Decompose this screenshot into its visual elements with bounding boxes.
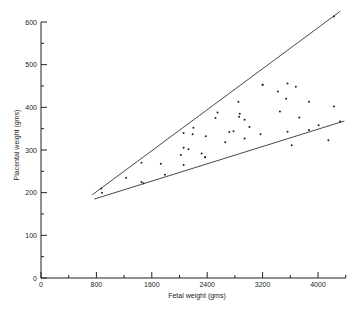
data-point [205,135,207,137]
x-tick-label: 0 [39,281,43,288]
data-point [318,124,320,126]
data-point [183,164,185,166]
data-point [262,84,264,86]
data-point [308,129,310,131]
data-point [260,133,262,135]
data-point [188,148,190,150]
data-point [228,131,230,133]
data-point [183,147,185,149]
data-point [327,139,329,141]
data-point [244,119,246,121]
data-point [285,98,287,100]
x-tick-label: 3200 [255,281,271,288]
data-point [201,152,203,154]
lower-bound-line [94,121,344,199]
y-tick-label: 600 [25,19,37,26]
data-point [164,174,166,176]
data-point [291,144,293,146]
data-point [233,130,235,132]
x-tick-label: 4000 [310,281,326,288]
data-points [100,15,341,193]
data-point [192,133,194,135]
data-point [339,120,341,122]
data-point [183,132,185,134]
data-point [279,111,281,113]
data-point [224,141,226,143]
data-point [295,86,297,88]
data-point [217,111,219,113]
data-point [308,101,310,103]
y-tick-label: 300 [25,147,37,154]
data-point [333,105,335,107]
data-point [192,127,194,129]
y-tick-label: 400 [25,104,37,111]
upper-bound-line [92,11,340,194]
y-axis-label: Placental weight (gms) [13,110,21,181]
data-point [238,116,240,118]
data-point [142,182,144,184]
data-point [248,126,250,128]
data-point [140,181,142,183]
data-point [100,187,102,189]
y-tick-label: 500 [25,61,37,68]
data-point [204,156,206,158]
data-point [333,15,335,17]
y-tick-label: 200 [25,189,37,196]
data-point [125,177,127,179]
data-point [180,154,182,156]
data-point [237,101,239,103]
boundary-lines [92,11,344,199]
x-tick-label: 1600 [144,281,160,288]
data-point [140,162,142,164]
y-tick-label: 100 [25,232,37,239]
y-tick-label: 0 [33,275,37,282]
data-point [101,192,103,194]
data-point [244,137,246,139]
data-point [160,163,162,165]
data-point [239,113,241,115]
data-point [277,91,279,93]
tick-labels: 010020030040050060008001600240032004000 [25,19,326,289]
data-point [287,82,289,84]
data-point [287,131,289,133]
x-tick-label: 2400 [199,281,215,288]
axes [41,22,346,278]
data-point [215,117,217,119]
data-point [298,117,300,119]
x-axis-label: Fetal weight (gms) [168,292,226,300]
x-tick-label: 800 [91,281,103,288]
scatter-chart: 010020030040050060008001600240032004000 … [0,0,359,312]
